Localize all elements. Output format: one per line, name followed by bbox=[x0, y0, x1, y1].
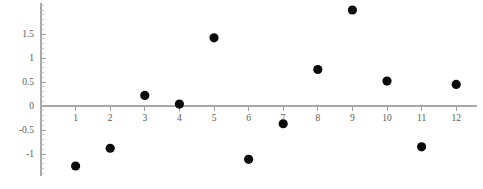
data-point bbox=[279, 119, 288, 128]
y-major-tick-group bbox=[41, 34, 46, 154]
y-tick-label: -1 bbox=[26, 149, 34, 159]
data-point bbox=[71, 161, 80, 170]
y-tick-label: 0 bbox=[29, 101, 34, 111]
x-tick-label: 11 bbox=[417, 113, 426, 123]
data-point bbox=[140, 91, 149, 100]
y-tick-label: 1.5 bbox=[22, 29, 34, 39]
x-tick-label: 6 bbox=[246, 113, 251, 123]
x-tick-label-group: 123456789101112 bbox=[73, 113, 461, 123]
x-tick-label: 1 bbox=[73, 113, 78, 123]
y-axis-group: -1-0.500.511.5 bbox=[19, 3, 46, 175]
data-point bbox=[106, 144, 115, 153]
data-point bbox=[382, 76, 391, 85]
x-tick-label: 8 bbox=[315, 113, 320, 123]
scatter-chart: -1-0.500.511.5 123456789101112 bbox=[0, 0, 483, 189]
data-point-group bbox=[71, 5, 461, 170]
x-tick-label: 12 bbox=[451, 113, 461, 123]
x-tick-label: 3 bbox=[142, 113, 147, 123]
x-axis-group: 123456789101112 bbox=[41, 106, 477, 123]
x-tick-label: 10 bbox=[382, 113, 392, 123]
data-point bbox=[175, 99, 184, 108]
y-tick-label: 1 bbox=[29, 53, 34, 63]
x-tick-label: 5 bbox=[212, 113, 217, 123]
y-tick-label: -0.5 bbox=[19, 125, 34, 135]
data-point bbox=[209, 33, 218, 42]
data-point bbox=[452, 80, 461, 89]
data-point bbox=[313, 65, 322, 74]
chart-canvas: -1-0.500.511.5 123456789101112 bbox=[0, 0, 483, 189]
x-tick-label: 2 bbox=[108, 113, 113, 123]
x-tick-label: 4 bbox=[177, 113, 182, 123]
plot-area: -1-0.500.511.5 123456789101112 bbox=[0, 0, 483, 189]
y-tick-label-group: -1-0.500.511.5 bbox=[19, 29, 34, 159]
data-point bbox=[244, 155, 253, 164]
x-tick-label: 9 bbox=[350, 113, 355, 123]
data-point bbox=[417, 142, 426, 151]
x-major-tick-group bbox=[76, 106, 457, 111]
data-point bbox=[348, 5, 357, 14]
y-tick-label: 0.5 bbox=[22, 77, 34, 87]
